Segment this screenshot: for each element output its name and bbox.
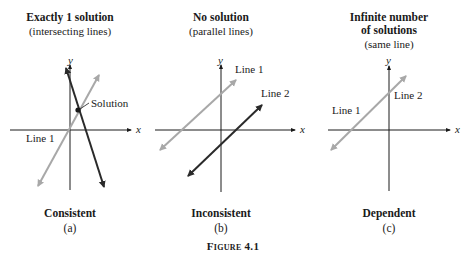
panel-a-graph [10, 65, 131, 190]
panel-a-line1-label: Line 1 [26, 132, 54, 144]
panel-a-letter: (a) [64, 222, 77, 234]
line-2 [188, 105, 262, 176]
panel-b-line2-label: Line 2 [261, 87, 289, 99]
panel-b-line1-label: Line 1 [235, 63, 263, 75]
panel-b-letter: (b) [214, 222, 227, 234]
panel-c-caption: Dependent [362, 207, 415, 219]
panel-b-graph [155, 65, 295, 192]
panel-c-line2-label: Line 2 [394, 89, 422, 101]
panel-b-x-label: x [300, 123, 305, 135]
panel-a-y-label: y [68, 54, 73, 66]
panel-a-solution-label: Solution [91, 97, 128, 109]
panel-a-x-label: x [136, 123, 141, 135]
solution-point [75, 107, 80, 112]
panel-b-caption: Inconsistent [191, 207, 250, 219]
panel-c-y-label: y [386, 54, 391, 66]
panel-c-graph [328, 66, 450, 191]
panel-a-caption: Consistent [44, 207, 96, 219]
line-2 [66, 68, 104, 187]
panel-b-y-label: y [218, 54, 223, 66]
figure-caption: Figure 4.1 [207, 240, 259, 252]
panel-c-letter: (c) [383, 222, 396, 234]
panel-c-line1-label: Line 1 [332, 104, 360, 116]
panel-c-x-label: x [455, 123, 460, 135]
